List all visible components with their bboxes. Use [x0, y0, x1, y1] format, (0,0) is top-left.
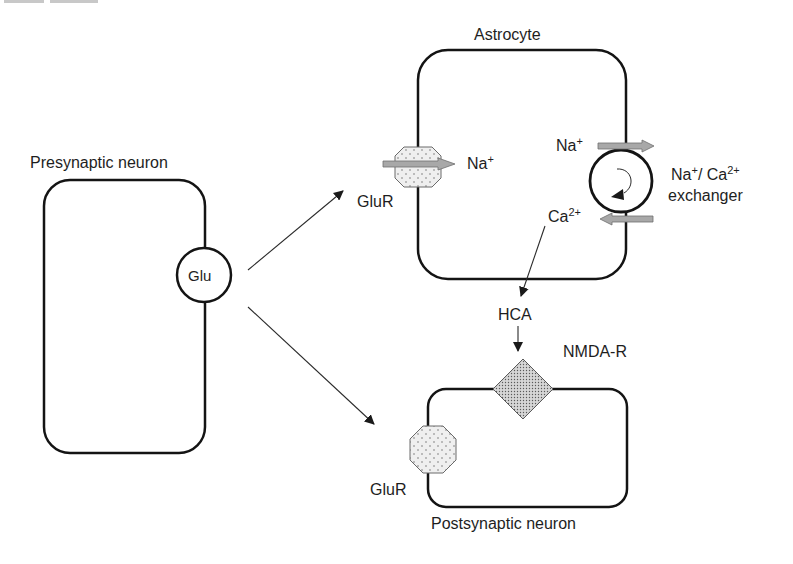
na-efflux-base: Na	[556, 137, 576, 154]
presynaptic-neuron-membrane	[44, 180, 205, 453]
postsynaptic-glur-label: GluR	[370, 482, 406, 498]
hca-label: HCA	[498, 307, 532, 323]
presynaptic-neuron-label: Presynaptic neuron	[30, 155, 168, 171]
exchanger-label-line1: Na+/ Ca2+	[671, 167, 740, 183]
nmda-r-label: NMDA-R	[563, 344, 627, 360]
na-efflux-charge: +	[576, 135, 582, 147]
postsynaptic-glur-receptor	[410, 426, 456, 473]
glu-to-astrocyte-arrow	[248, 191, 343, 270]
astrocyte-glur-label: GluR	[357, 194, 393, 210]
exchanger-label-line2: exchanger	[668, 188, 743, 204]
cropped-caption-fragment	[50, 0, 98, 3]
na-influx-base: Na	[467, 155, 487, 172]
exchanger-ca: Ca	[707, 166, 727, 183]
na-influx-charge: +	[487, 153, 493, 165]
exchanger-na: Na	[671, 166, 691, 183]
na-influx-label: Na+	[467, 156, 494, 172]
cropped-caption-fragment	[4, 0, 44, 3]
exchanger-na-charge: +	[691, 164, 697, 176]
nmda-receptor	[493, 359, 553, 419]
na-efflux-label: Na+	[556, 138, 583, 154]
glu-to-postsynaptic-arrow	[248, 307, 374, 424]
ca-to-hca-arrow	[521, 226, 545, 296]
exchanger-separator: /	[698, 166, 707, 183]
postsynaptic-neuron-label: Postsynaptic neuron	[431, 516, 576, 532]
exchanger-ca-charge: 2+	[727, 164, 740, 176]
na-ca-exchanger	[590, 150, 652, 212]
glutamate-signaling-diagram	[0, 0, 793, 564]
ca-influx-charge: 2+	[568, 206, 581, 218]
astrocyte-label: Astrocyte	[474, 27, 541, 43]
ca-influx-label: Ca2+	[548, 209, 581, 225]
ca-influx-base: Ca	[548, 208, 568, 225]
glu-label: Glu	[188, 268, 211, 283]
